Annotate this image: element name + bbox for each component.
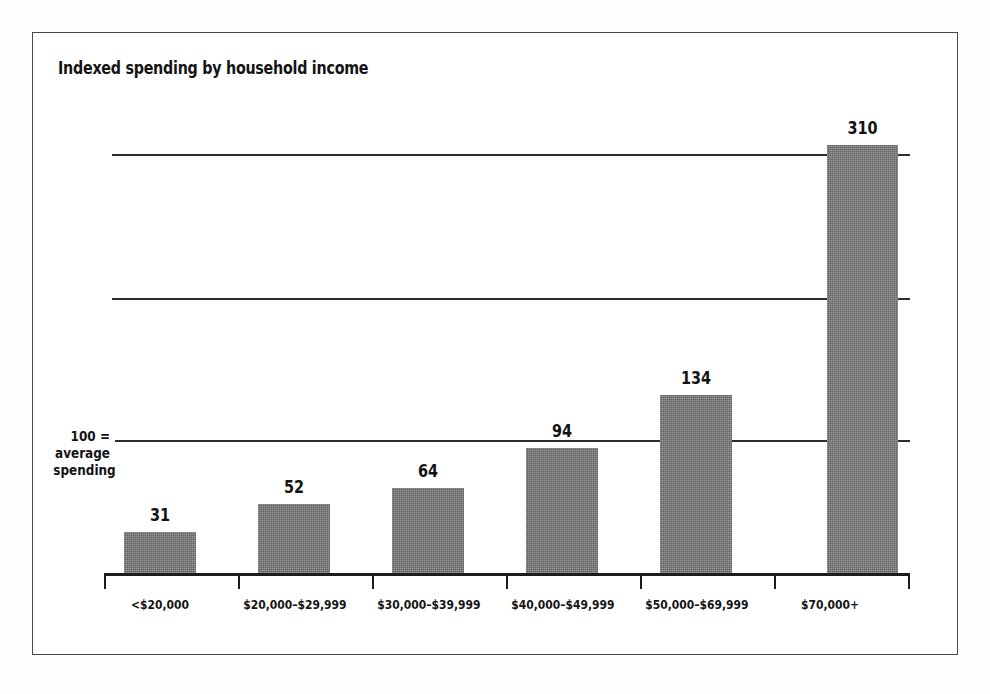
reference-line-label-average: average (53, 445, 110, 462)
reference-line-label-spending: spending (53, 462, 110, 479)
chart-figure: Indexed spending by household income 100… (0, 0, 990, 694)
reference-line-label-value: 100 = (53, 428, 110, 445)
reference-line-annotation: 100 = average spending (53, 428, 110, 479)
chart-title: Indexed spending by household income (58, 58, 368, 78)
chart-frame-border (32, 32, 958, 655)
